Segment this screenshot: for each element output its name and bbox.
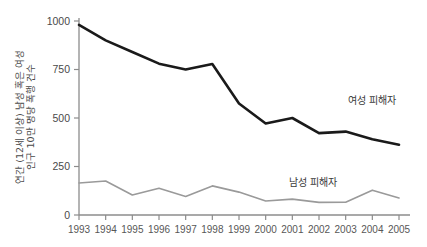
x-axis-tick-label: 2001 xyxy=(281,224,304,235)
series-annotation-female: 여성 피해자 xyxy=(348,94,396,106)
x-axis-tick-label: 2003 xyxy=(335,224,358,235)
x-axis-tick-label: 1996 xyxy=(148,224,171,235)
y-axis-tick-label: 0 xyxy=(64,209,70,221)
x-axis-tick-label: 1999 xyxy=(228,224,251,235)
y-axis-tick-label: 750 xyxy=(52,63,70,75)
y-axis-title: 연간 (12세 이상) 남성 혹은 여성 인구 10만 명당 폭행 건수 xyxy=(14,50,36,184)
line-chart: 02505007501000 1993199419951996199719981… xyxy=(0,0,427,247)
series-annotation-male: 남성 피해자 xyxy=(289,176,337,188)
y-axis-tick-label: 1000 xyxy=(47,15,71,27)
y-axis-tick-label: 500 xyxy=(52,112,70,124)
x-axis-tick-label: 1998 xyxy=(201,224,224,235)
x-axis-tick-label: 2005 xyxy=(388,224,411,235)
x-axis-tick-label: 1995 xyxy=(121,224,144,235)
y-axis-tick-label: 250 xyxy=(52,160,70,172)
y-axis-title-line1: 연간 (12세 이상) 남성 혹은 여성 xyxy=(14,50,25,184)
x-axis-tick-label: 2000 xyxy=(255,224,278,235)
chart-container: 02505007501000 1993199419951996199719981… xyxy=(0,0,427,247)
x-axis-tick-label: 1993 xyxy=(68,224,91,235)
y-axis-title-line2: 인구 10만 명당 폭행 건수 xyxy=(25,64,36,169)
x-axis-tick-label: 2004 xyxy=(361,224,384,235)
x-axis-tick-label: 1997 xyxy=(175,224,198,235)
x-axis-tick-label: 2002 xyxy=(308,224,331,235)
x-axis-tick-label: 1994 xyxy=(95,224,118,235)
